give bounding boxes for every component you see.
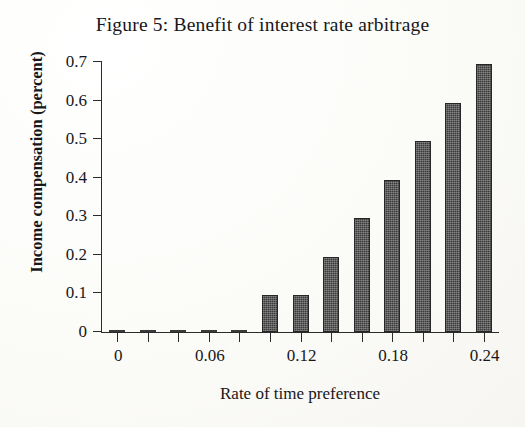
x-axis-tick <box>423 332 424 342</box>
y-axis-tick-label: 0.1 <box>66 283 87 303</box>
bar <box>109 330 125 332</box>
y-axis-tick: 0 <box>93 331 102 332</box>
x-axis-tick-label: 0.12 <box>287 346 317 366</box>
y-axis-tick-label: 0.4 <box>66 168 87 188</box>
bar <box>354 218 370 332</box>
x-axis-tick <box>148 332 149 342</box>
y-axis-tick: 0.5 <box>93 138 102 139</box>
y-axis-tick-label: 0.7 <box>66 52 87 72</box>
plot-area: 00.10.20.30.40.50.60.700.060.120.180.24 <box>101 62 499 333</box>
y-axis-tick: 0.6 <box>93 100 102 101</box>
x-axis-tick-label: 0.18 <box>378 346 408 366</box>
figure-title: Figure 5: Benefit of interest rate arbit… <box>0 14 525 36</box>
x-axis-tick: 0.18 <box>392 332 393 342</box>
y-axis-tick-label: 0 <box>79 322 88 342</box>
y-axis-tick: 0.7 <box>93 61 102 62</box>
y-axis-tick-label: 0.5 <box>66 129 87 149</box>
y-axis-tick: 0.4 <box>93 177 102 178</box>
y-axis-tick: 0.3 <box>93 215 102 216</box>
x-axis-tick: 0.12 <box>301 332 302 342</box>
x-axis-title: Rate of time preference <box>101 384 499 404</box>
x-axis-tick <box>362 332 363 342</box>
bar <box>170 330 186 332</box>
y-axis-tick-label: 0.3 <box>66 206 87 226</box>
bar <box>201 330 217 332</box>
bar <box>231 330 247 332</box>
figure-container: Figure 5: Benefit of interest rate arbit… <box>0 0 525 427</box>
x-axis-tick: 0.06 <box>209 332 210 342</box>
x-axis-tick: 0.24 <box>484 332 485 342</box>
y-axis-tick-label: 0.6 <box>66 91 87 111</box>
y-axis-title: Income compensation (percent) <box>27 37 47 287</box>
bar <box>445 103 461 333</box>
x-axis-tick-label: 0.06 <box>195 346 225 366</box>
bar <box>293 295 309 332</box>
y-axis-tick: 0.2 <box>93 254 102 255</box>
x-axis-tick-label: 0 <box>114 346 123 366</box>
x-axis-tick <box>178 332 179 342</box>
bar <box>140 330 156 332</box>
x-axis-tick: 0 <box>117 332 118 342</box>
bar <box>415 141 431 332</box>
bar <box>476 64 492 332</box>
bar <box>384 180 400 332</box>
x-axis-tick <box>453 332 454 342</box>
x-axis-tick <box>331 332 332 342</box>
bar <box>323 257 339 332</box>
x-axis-tick <box>270 332 271 342</box>
x-axis-tick <box>239 332 240 342</box>
y-axis-tick: 0.1 <box>93 292 102 293</box>
bar <box>262 295 278 332</box>
x-axis-tick-label: 0.24 <box>470 346 500 366</box>
y-axis-tick-label: 0.2 <box>66 245 87 265</box>
